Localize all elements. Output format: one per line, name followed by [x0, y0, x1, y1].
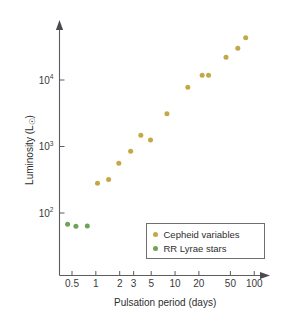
x-tick-label: 100: [246, 278, 263, 289]
x-tick-label: 1: [93, 278, 99, 289]
data-point: [235, 46, 240, 51]
legend-marker: [153, 232, 158, 237]
legend-marker: [153, 246, 158, 251]
series-cepheid-variables: [95, 35, 248, 185]
data-point: [200, 73, 205, 78]
data-point: [95, 181, 100, 186]
legend-label: RR Lyrae stars: [164, 243, 227, 254]
x-tick-label: 2: [117, 278, 123, 289]
y-tick-label: 103: [39, 140, 54, 152]
legend: Cepheid variablesRR Lyrae stars: [147, 224, 265, 259]
data-point: [148, 138, 153, 143]
data-point: [164, 111, 169, 116]
series-rr-lyrae-stars: [65, 222, 90, 229]
y-tick-label: 102: [39, 206, 54, 218]
x-tick-label: 50: [225, 278, 237, 289]
data-point: [185, 85, 190, 90]
data-point: [206, 73, 211, 78]
data-point: [243, 35, 248, 40]
x-tick-label: 0.5: [65, 278, 79, 289]
data-point: [65, 222, 70, 227]
x-axis-title: Pulsation period (days): [114, 297, 216, 308]
data-point: [116, 161, 121, 166]
data-point: [224, 55, 229, 60]
data-point: [138, 133, 143, 138]
legend-label: Cepheid variables: [164, 229, 240, 240]
x-tick-group: 0.51235102050100: [65, 271, 263, 289]
data-point: [106, 177, 111, 182]
y-axis-arrow-icon: [56, 20, 63, 30]
y-tick-label: 104: [39, 73, 54, 85]
y-tick-group: 104103102: [39, 73, 65, 218]
x-tick-label: 3: [131, 278, 137, 289]
data-point: [73, 224, 78, 229]
x-tick-label: 10: [169, 278, 181, 289]
y-axis-title: Luminosity (L☉): [24, 115, 37, 185]
luminosity-period-scatter-figure: 0.51235102050100104103102Pulsation perio…: [0, 0, 285, 327]
data-point: [85, 223, 90, 228]
x-tick-label: 5: [148, 278, 154, 289]
data-point: [128, 149, 133, 154]
chart-canvas: 0.51235102050100104103102Pulsation perio…: [0, 0, 285, 327]
x-tick-label: 20: [193, 278, 205, 289]
